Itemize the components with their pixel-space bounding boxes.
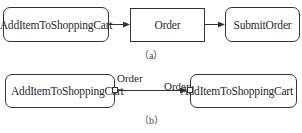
node-add-item-to-shopping-cart-source: AddItemToShoppingCart: [5, 74, 115, 108]
node-submit-order: SubmitOrder: [225, 7, 300, 42]
node-label: AddItemToShoppingCart: [180, 85, 293, 97]
caption-a: （a）: [139, 47, 163, 62]
node-order: Order: [130, 8, 205, 42]
output-pin: [112, 87, 118, 93]
caption-b: （b）: [139, 112, 164, 127]
output-pin-label: Order: [117, 72, 143, 84]
node-label: Order: [155, 19, 181, 31]
node-add-item-to-shopping-cart: AddItemToShoppingCart: [3, 7, 109, 42]
node-label: AddItemToShoppingCart: [0, 19, 112, 31]
node-add-item-to-shopping-cart-target: AddItemToShoppingCart: [190, 74, 297, 108]
node-label: SubmitOrder: [234, 19, 292, 31]
input-pin-label: Order: [164, 80, 190, 92]
node-label: AddItemToShoppingCart: [11, 85, 124, 97]
